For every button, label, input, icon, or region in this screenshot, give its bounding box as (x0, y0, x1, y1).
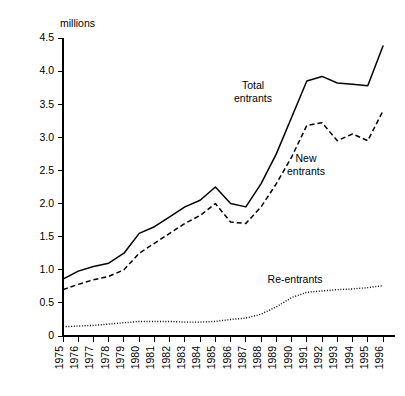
x-tick-label: 1989 (266, 346, 278, 370)
x-tick-label: 1979 (114, 346, 126, 370)
y-tick-label: 3.5 (39, 98, 54, 110)
annotation-total-line2: entrants (234, 92, 272, 104)
y-tick-label: 1.0 (39, 263, 54, 275)
x-tick-label: 1992 (312, 346, 324, 370)
x-tick-label: 1975 (53, 346, 65, 370)
x-tick-label: 1991 (297, 346, 309, 370)
x-tick-label: 1993 (327, 346, 339, 370)
x-tick-label: 1995 (358, 346, 370, 370)
x-tick-label: 1996 (373, 346, 385, 370)
y-tick-label: 2.5 (39, 164, 54, 176)
x-tick-label: 1976 (68, 346, 80, 370)
y-tick-label: 4.5 (39, 31, 54, 43)
y-tick-label: 0.5 (39, 296, 54, 308)
annotation-re-line1: Re-entrants (268, 273, 323, 285)
x-tick-label: 1987 (236, 346, 248, 370)
x-tick-label: 1980 (129, 346, 141, 370)
annotation-re-entrants: Re-entrants (268, 273, 323, 285)
chart-container: millions 00.51.01.52.02.53.03.54.04.5 To… (0, 0, 405, 396)
x-tick-label: 1978 (99, 346, 111, 370)
x-tick-label: 1986 (221, 346, 233, 370)
x-tick-label: 1994 (343, 346, 355, 370)
annotation-new-line2: entrants (287, 165, 325, 177)
y-axis-unit-label: millions (60, 17, 95, 29)
y-tick-label: 4.0 (39, 64, 54, 76)
annotation-total-line1: Total (242, 79, 264, 91)
x-tick-label: 1977 (83, 346, 95, 370)
y-tick-label: 3.0 (39, 131, 54, 143)
x-tick-label: 1988 (251, 346, 263, 370)
x-tick-label: 1985 (205, 346, 217, 370)
line-chart: millions 00.51.01.52.02.53.03.54.04.5 To… (0, 0, 405, 396)
y-tick-label: 2.0 (39, 197, 54, 209)
annotation-new-line1: New (295, 152, 316, 164)
y-tick-label: 1.5 (39, 230, 54, 242)
x-tick-label: 1984 (190, 346, 202, 370)
x-tick-label: 1982 (160, 346, 172, 370)
x-tick-label: 1983 (175, 346, 187, 370)
x-tick-label: 1981 (144, 346, 156, 370)
x-tick-label: 1990 (282, 346, 294, 370)
y-tick-label: 0 (48, 329, 54, 341)
